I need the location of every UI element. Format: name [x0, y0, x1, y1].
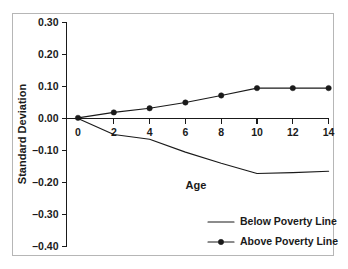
y-tick-label: –0.10: [32, 144, 58, 156]
legend-item: Below Poverty Line: [208, 215, 337, 227]
legend-label: Above Poverty Line: [240, 235, 338, 247]
x-tick-label: 14: [323, 126, 335, 138]
x-tick-label-group: 02468101214: [75, 126, 335, 138]
x-tick-label: 2: [111, 126, 117, 138]
x-tick-label: 10: [251, 126, 263, 138]
data-point-marker: [75, 115, 80, 120]
x-tick-label: 8: [218, 126, 224, 138]
data-point-marker: [111, 110, 116, 115]
y-tick-label: –0.20: [32, 176, 58, 188]
data-point-marker: [183, 100, 188, 105]
x-tick-label: 4: [147, 126, 153, 138]
x-axis: 02468101214: [67, 119, 335, 138]
x-tick-group: [114, 119, 329, 124]
y-axis-title: Standard Deviation: [16, 84, 28, 185]
chart-legend: Below Poverty LineAbove Poverty Line: [208, 215, 338, 247]
x-tick-label: 6: [182, 126, 188, 138]
legend-item: Above Poverty Line: [208, 235, 338, 247]
y-tick-label: –0.30: [32, 208, 58, 220]
legend-label: Below Poverty Line: [240, 215, 337, 227]
y-tick-label-group: 0.300.200.100.00–0.10–0.20–0.30–0.40: [32, 16, 58, 252]
y-tick-group: [62, 23, 67, 247]
x-tick-label: 0: [75, 126, 81, 138]
series-marker-group: [75, 85, 331, 120]
x-axis-title: Age: [186, 179, 207, 191]
y-tick-label: 0.10: [38, 80, 59, 92]
legend-marker-swatch: [218, 239, 223, 244]
x-tick-label: 12: [287, 126, 299, 138]
line-chart: 0.300.200.100.00–0.10–0.20–0.30–0.40 024…: [0, 0, 348, 269]
data-point-marker: [147, 106, 152, 111]
data-point-marker: [254, 85, 259, 90]
y-tick-label: 0.30: [38, 16, 59, 28]
data-point-marker: [219, 93, 224, 98]
chart-figure: 0.300.200.100.00–0.10–0.20–0.30–0.40 024…: [0, 0, 348, 269]
data-point-marker: [326, 85, 331, 90]
y-tick-label: –0.40: [32, 240, 58, 252]
y-tick-label: 0.00: [38, 112, 59, 124]
data-point-marker: [290, 85, 295, 90]
y-axis: 0.300.200.100.00–0.10–0.20–0.30–0.40: [32, 16, 66, 252]
y-tick-label: 0.20: [38, 48, 59, 60]
